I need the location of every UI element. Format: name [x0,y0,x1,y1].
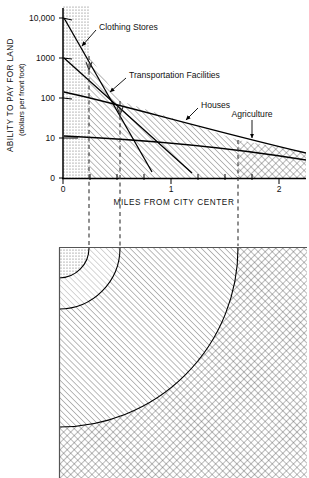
x-tick-label-2: 2 [277,184,282,194]
x-axis-title: MILES FROM CITY CENTER [114,198,235,207]
leader-houses [186,108,198,120]
label-houses: Houses [201,100,230,110]
y-axis-title: ABILITY TO PAY FOR LAND [6,38,15,152]
y-tick-label-10000: 10,000 [29,13,55,23]
bid-rent-figure: 10,000 1000 100 10 0 0 1 2 MILES FROM CI… [0,0,309,478]
label-agriculture: Agriculture [231,109,272,119]
label-clothing-stores: Clothing Stores [99,22,158,32]
y-axis-subtitle: (dollars per front foot) [17,63,26,136]
x-tick-label-1: 1 [169,184,174,194]
y-tick-label-1000: 1000 [36,53,55,63]
x-tick-label-0: 0 [61,184,66,194]
figure-root: 10,000 1000 100 10 0 0 1 2 MILES FROM CI… [0,0,309,478]
y-tick-label-10: 10 [46,133,56,143]
map-panel [59,248,307,478]
leader-transportation [110,78,126,92]
chart-panel: 10,000 1000 100 10 0 0 1 2 MILES FROM CI… [6,6,306,207]
label-transportation-facilities: Transportation Facilities [129,70,220,80]
y-tick-label-100: 100 [41,93,55,103]
y-tick-label-0: 0 [50,173,55,183]
